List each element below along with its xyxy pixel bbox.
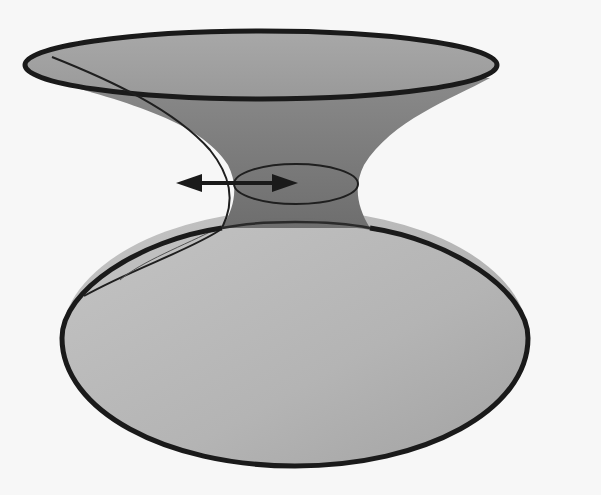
diagram-svg xyxy=(0,0,601,495)
funnel-diagram xyxy=(0,0,601,495)
top-rim xyxy=(25,31,497,99)
